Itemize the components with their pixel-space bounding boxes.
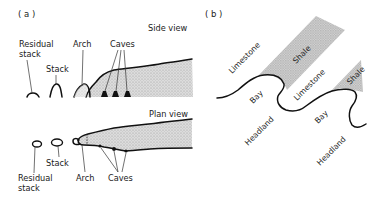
bay-upper-label: Bay (248, 88, 265, 105)
plan-residual-label-1: Residual (18, 173, 53, 183)
side-caves-label: Caves (110, 39, 135, 49)
plan-arch-label: Arch (76, 173, 94, 183)
plan-view-title: Plan view (149, 109, 188, 119)
plan-view-residual-stack (33, 141, 42, 147)
plan-stack-label: Stack (46, 158, 69, 168)
plan-residual-label-2: stack (18, 183, 40, 193)
plan-view-cave-3 (124, 149, 127, 152)
panel-a: ( a ) Side view Residual stack Stack A (18, 9, 193, 193)
limestone-upper-label: Limestone (227, 40, 262, 75)
plan-view-cave-1 (98, 144, 101, 147)
plan-view-stack (52, 139, 63, 146)
coastal-erosion-diagram: ( a ) Side view Residual stack Stack A (0, 0, 385, 198)
plan-view: Plan view Stack Residual stack Arch (18, 109, 192, 193)
side-view: Side view Residual stack Stack Arch Cave… (19, 23, 193, 97)
side-residual-label-2: stack (19, 49, 41, 59)
panel-b-label: ( b ) (205, 9, 222, 19)
plan-view-cave-2 (112, 147, 116, 151)
side-stack-label: Stack (46, 64, 69, 74)
headland-lower-label: Headland (315, 135, 348, 168)
side-residual-label-1: Residual (19, 39, 54, 49)
bay-lower-label: Bay (313, 108, 330, 125)
headland-upper-label: Headland (243, 115, 276, 148)
plan-caves-label: Caves (108, 173, 133, 183)
side-view-title: Side view (148, 23, 187, 33)
panel-b: ( b ) Limestone Shale Bay Limestone Shal… (205, 9, 367, 167)
side-view-cliff (86, 59, 193, 97)
side-view-residual-stack (27, 93, 39, 97)
side-view-stack (50, 84, 62, 97)
panel-a-label: ( a ) (18, 9, 35, 19)
side-arch-label: Arch (73, 39, 91, 49)
